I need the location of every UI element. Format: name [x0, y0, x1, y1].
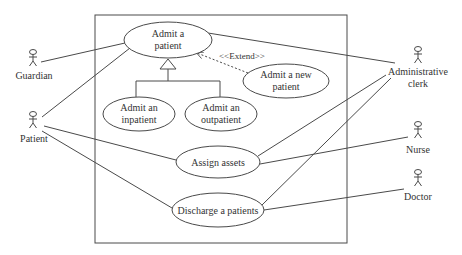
use-case-label: Discharge a patients	[178, 205, 259, 216]
use-case-assign-assets[interactable]: Assign assets	[176, 146, 260, 178]
stick-figure-icon	[29, 112, 37, 129]
use-case-admit-new-patient[interactable]: Admit a new patient	[243, 64, 329, 98]
actor-label: Administrative	[388, 66, 449, 77]
use-case-admit-outpatient[interactable]: Admit an outpatient	[185, 97, 257, 131]
actor-guardian[interactable]: Guardian	[15, 50, 52, 82]
actor-patient[interactable]: Patient	[20, 112, 48, 145]
use-case-label: patient	[154, 40, 181, 51]
actor-administrative-clerk[interactable]: Administrative clerk	[388, 47, 449, 90]
use-case-label: inpatient	[122, 114, 157, 125]
use-case-label: outpatient	[201, 114, 241, 125]
actor-label: Nurse	[406, 144, 430, 155]
use-case-label: patient	[272, 81, 299, 92]
generalization-triangle-icon	[160, 59, 176, 69]
actor-label: Guardian	[15, 70, 52, 81]
stick-figure-icon	[414, 47, 422, 64]
use-case-label: Admit an	[120, 102, 158, 113]
generalization	[136, 59, 220, 97]
actor-label: clerk	[408, 78, 428, 89]
use-case-label: Admit a new	[260, 69, 312, 80]
use-case-diagram: <<Extend>> Admit a patient Admit an inpa…	[0, 0, 462, 255]
assoc-patient-assets	[44, 126, 176, 160]
use-case-discharge-patients[interactable]: Discharge a patients	[172, 193, 264, 227]
use-case-label: Admit an	[202, 102, 240, 113]
stick-figure-icon	[29, 50, 37, 67]
actor-doctor[interactable]: Doctor	[404, 170, 432, 203]
actor-label: Patient	[20, 133, 48, 144]
use-case-admit-inpatient[interactable]: Admit an inpatient	[103, 97, 175, 131]
assoc-guardian-admit	[41, 43, 125, 62]
assoc-doctor-discharge	[264, 189, 404, 210]
stick-figure-icon	[414, 170, 422, 187]
actor-label: Doctor	[404, 191, 432, 202]
stick-figure-icon	[414, 122, 422, 139]
use-case-admit-patient[interactable]: Admit a patient	[124, 22, 212, 58]
use-case-label: Admit a	[152, 28, 185, 39]
extend-label: <<Extend>>	[219, 51, 265, 61]
actor-nurse[interactable]: Nurse	[406, 122, 430, 156]
use-case-label: Assign assets	[191, 157, 245, 168]
